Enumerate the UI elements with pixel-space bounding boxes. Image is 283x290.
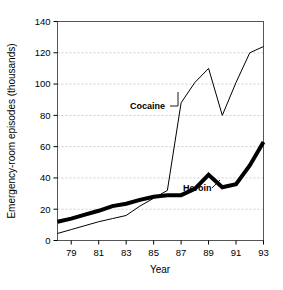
y-axis-title: Emergency-room episodes (thousands) <box>6 43 17 218</box>
y-tick-label: 140 <box>35 16 51 27</box>
x-tick-label: 83 <box>121 247 132 258</box>
y-tick-label: 100 <box>35 78 51 89</box>
x-tick-label: 85 <box>148 247 159 258</box>
y-tick-label: 40 <box>40 172 51 183</box>
y-tick-label: 20 <box>40 204 51 215</box>
series-line-cocaine <box>58 47 264 234</box>
x-tick-label: 81 <box>93 247 104 258</box>
y-tick-label: 0 <box>45 235 50 246</box>
y-tick-label: 80 <box>40 110 51 121</box>
line-chart: 020406080100120140 7981838587899193 Coca… <box>0 0 283 290</box>
x-tick-label: 89 <box>203 247 214 258</box>
x-tick-label: 87 <box>176 247 187 258</box>
x-tick-label: 91 <box>231 247 242 258</box>
x-tick-label: 79 <box>66 247 77 258</box>
x-tick-label: 93 <box>258 247 269 258</box>
cocaine-leader-line <box>170 92 178 106</box>
cocaine-series-label: Cocaine <box>130 101 165 111</box>
y-tick-label: 60 <box>40 141 51 152</box>
x-axis-tick-labels: 7981838587899193 <box>66 247 269 258</box>
x-axis-ticks <box>71 241 263 245</box>
data-series-group <box>58 47 264 234</box>
series-line-heroin <box>58 142 264 222</box>
y-tick-label: 120 <box>35 47 51 58</box>
chart-figure: 020406080100120140 7981838587899193 Coca… <box>0 0 283 290</box>
heroin-series-label: Heroin <box>183 183 212 193</box>
x-axis-title: Year <box>150 264 171 275</box>
y-axis-tick-labels: 020406080100120140 <box>35 16 51 246</box>
annotation-leader-lines <box>170 92 220 188</box>
y-axis-ticks <box>54 22 58 241</box>
plot-frame <box>58 22 264 241</box>
